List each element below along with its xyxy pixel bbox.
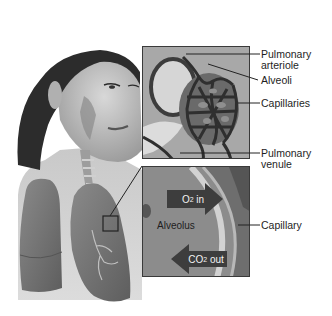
o2-in-arrow: O2 in bbox=[169, 191, 217, 207]
respiratory-diagram: O2 in Alveolus CO2 out Pulmonary arterio… bbox=[0, 0, 332, 316]
label-capillary: Capillary bbox=[261, 220, 302, 231]
label-pulmonary-venule: Pulmonary venule bbox=[261, 148, 311, 170]
o2-direction: in bbox=[194, 194, 205, 205]
alveoli-inset bbox=[142, 46, 250, 159]
co2-symbol: CO bbox=[188, 254, 203, 265]
alveolus-label: Alveolus bbox=[157, 220, 195, 231]
right-lung bbox=[20, 179, 62, 292]
alveoli-capillary-network bbox=[143, 47, 250, 159]
label-pulmonary-arteriole: Pulmonary arteriole bbox=[261, 49, 311, 71]
co2-out-arrow: CO2 out bbox=[183, 252, 229, 267]
co2-direction: out bbox=[207, 254, 224, 265]
label-capillaries: Capillaries bbox=[261, 98, 310, 109]
gas-exchange-inset: O2 in Alveolus CO2 out bbox=[142, 166, 250, 277]
o2-symbol: O bbox=[182, 194, 190, 205]
label-alveoli: Alveoli bbox=[261, 75, 292, 86]
